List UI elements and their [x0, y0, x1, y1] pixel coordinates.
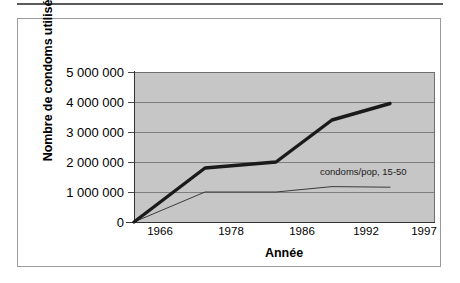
x-tick-label-1992: 1992	[336, 226, 396, 238]
y-tick-label-1000000: 1 000 000	[28, 186, 124, 199]
y-tick-label-4000000: 4 000 000	[28, 96, 124, 109]
x-axis-title: Année	[134, 246, 434, 260]
x-axis-line	[126, 222, 435, 223]
x-tick-label-1978: 1978	[201, 226, 261, 238]
y-axis-tick-labels: 5 000 000 4 000 000 3 000 000 2 000 000 …	[28, 62, 124, 232]
data-series-layer	[134, 72, 434, 222]
x-tick-label-1986: 1986	[272, 226, 332, 238]
page-top-rule	[17, 3, 443, 5]
x-tick-label-1997: 1997	[394, 226, 454, 238]
y-tick-label-5000000: 5 000 000	[28, 66, 124, 79]
y-tick-label-0: 0	[28, 216, 124, 229]
y-tick-label-3000000: 3 000 000	[28, 126, 124, 139]
x-axis-tick-labels: 1966 1978 1986 1992 1997	[134, 226, 434, 244]
x-tick-label-1966: 1966	[130, 226, 190, 238]
series-line-condoms-used	[134, 104, 390, 223]
chart-figure: Nombre de condoms utilisés 5 000 000 4 0…	[0, 0, 460, 283]
series-annotation-condoms-per-pop: condoms/pop, 15-50	[320, 166, 407, 177]
y-tick-label-2000000: 2 000 000	[28, 156, 124, 169]
